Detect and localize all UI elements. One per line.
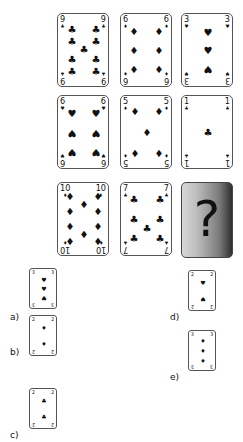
card-3-hearts: 3♥ 3♥ 3♥ 3♥ ♥ ♥ ♥ <box>181 13 233 87</box>
card-corner: 2 <box>191 304 194 309</box>
card-corner: 9♣ <box>60 15 65 28</box>
club-icon: ♣ <box>41 398 46 404</box>
diamond-icon: ♦ <box>66 192 75 202</box>
card-corner: 3 <box>191 332 194 337</box>
heart-icon: ♥ <box>204 28 213 38</box>
heart-icon: ♥ <box>41 295 46 301</box>
card-corner: 2 <box>51 422 54 427</box>
card-corner: 9♣ <box>101 15 106 28</box>
card-corner: 3 <box>32 270 35 275</box>
card-corner: 6♦ <box>164 72 169 85</box>
card-corner: 3 <box>210 332 213 337</box>
heart-icon: ♥ <box>41 286 46 292</box>
heart-icon: ♥ <box>204 64 213 74</box>
club-icon: ♣ <box>68 55 77 65</box>
card-corner: 2 <box>51 390 54 395</box>
diamond-icon: ♦ <box>130 65 139 75</box>
card-corner: 6♦ <box>123 15 128 28</box>
club-icon: ♣ <box>68 67 77 77</box>
card-corner: 2 <box>32 422 35 427</box>
diamond-icon: ♦ <box>94 237 103 247</box>
diamond-icon: ♦ <box>130 27 139 37</box>
card-corner: 2 <box>210 304 213 309</box>
card-corner: 5♦ <box>123 154 128 167</box>
diamond-icon: ♦ <box>155 27 164 37</box>
heart-icon: ♥ <box>200 280 205 286</box>
card-corner: 2 <box>51 317 54 322</box>
club-icon: ♣ <box>156 215 165 225</box>
card-corner: 7♣ <box>164 184 169 197</box>
heart-icon: ♥ <box>92 147 101 157</box>
card-corner: 6♥ <box>101 154 106 167</box>
card-corner: 3 <box>210 364 213 369</box>
diamond-icon: ♦ <box>155 46 164 56</box>
card-corner: 6♦ <box>123 72 128 85</box>
card-corner: 2 <box>32 349 35 354</box>
card-corner: 2 <box>51 349 54 354</box>
heart-icon: ♥ <box>41 277 46 283</box>
heart-icon: ♥ <box>92 128 101 138</box>
option-label-a: a) <box>10 312 19 322</box>
card-5-diamonds: 5♦ 5♦ 5♦ 5♦ ♦ ♦ ♦ ♦ ♦ <box>120 95 172 169</box>
heart-icon: ♥ <box>204 46 213 56</box>
card-corner: 9♣ <box>60 72 65 85</box>
option-label-e: e) <box>170 372 179 382</box>
card-corner: 6♥ <box>60 154 65 167</box>
option-c-card[interactable]: 2 2 2 2 ♣ ♣ <box>29 388 57 429</box>
club-icon: ♣ <box>204 128 213 138</box>
diamond-icon: ♦ <box>41 341 46 347</box>
diamond-icon: ♦ <box>41 325 46 331</box>
club-icon: ♣ <box>92 25 101 35</box>
option-b-card[interactable]: 2 2 2 2 ♦ ♦ <box>29 315 57 356</box>
club-icon: ♣ <box>92 67 101 77</box>
option-a-card[interactable]: 3 3 3 3 ♥ ♥ ♥ <box>29 268 57 309</box>
card-corner: 2 <box>191 272 194 277</box>
club-icon: ♣ <box>68 37 77 47</box>
card-corner: 1♣ <box>225 97 230 110</box>
card-corner: 5♦ <box>164 154 169 167</box>
heart-icon: ♥ <box>68 109 77 119</box>
club-icon: ♣ <box>80 45 89 55</box>
diamond-icon: ♦ <box>143 128 152 138</box>
card-corner: 2 <box>32 390 35 395</box>
card-9-clubs: 9♣ 9♣ 9♣ 9♣ ♣ ♣ ♣ ♣ ♣ ♣ ♣ ♣ ♣ <box>57 13 109 87</box>
club-icon: ♣ <box>68 25 77 35</box>
club-icon: ♣ <box>92 37 101 47</box>
card-corner: 7♣ <box>164 241 169 254</box>
diamond-icon: ♦ <box>130 46 139 56</box>
card-corner: 7♣ <box>123 241 128 254</box>
card-corner: 2 <box>210 272 213 277</box>
diamond-icon: ♦ <box>94 222 103 232</box>
diamond-icon: ♦ <box>155 65 164 75</box>
club-icon: ♣ <box>156 234 165 244</box>
club-icon: ♣ <box>130 215 139 225</box>
card-corner: 6♥ <box>101 97 106 110</box>
diamond-icon: ♦ <box>200 358 205 364</box>
club-icon: ♣ <box>130 195 139 205</box>
card-corner: 3♥ <box>225 72 230 85</box>
diamond-icon: ♦ <box>155 149 164 159</box>
diamond-icon: ♦ <box>200 338 205 344</box>
diamond-icon: ♦ <box>155 107 164 117</box>
card-corner: 3♥ <box>184 15 189 28</box>
question-mark-icon: ? <box>182 191 232 247</box>
card-corner: 5♦ <box>123 97 128 110</box>
card-corner: 2 <box>32 317 35 322</box>
card-corner: 7♣ <box>123 184 128 197</box>
club-icon: ♣ <box>92 55 101 65</box>
card-corner: 6♥ <box>60 97 65 110</box>
card-corner: 5♦ <box>164 97 169 110</box>
heart-icon: ♥ <box>200 296 205 302</box>
option-d-card[interactable]: 2 2 2 2 ♥ ♥ <box>188 270 216 311</box>
option-e-card[interactable]: 3 3 3 3 ♦ ♦ ♦ <box>188 330 216 371</box>
club-icon: ♣ <box>156 195 165 205</box>
club-icon: ♣ <box>143 224 152 234</box>
card-corner: 6♦ <box>164 15 169 28</box>
card-corner: 3♥ <box>225 15 230 28</box>
diamond-icon: ♦ <box>94 207 103 217</box>
card-corner: 3 <box>32 302 35 307</box>
club-icon: ♣ <box>41 414 46 420</box>
card-7-clubs: 7♣ 7♣ 7♣ 7♣ ♣ ♣ ♣ ♣ ♣ ♣ ♣ <box>120 182 172 256</box>
card-corner: 9♣ <box>101 72 106 85</box>
card-corner: 1♣ <box>184 97 189 110</box>
